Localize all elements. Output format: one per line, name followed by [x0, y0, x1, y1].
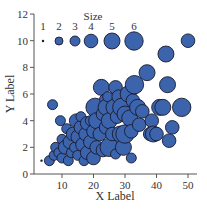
- y-tick-label: 6: [23, 88, 29, 100]
- data-point: [126, 153, 136, 163]
- legend-label: 5: [109, 20, 115, 32]
- y-tick-label: 8: [23, 61, 29, 73]
- legend-marker: [104, 33, 120, 49]
- y-tick-label: 12: [17, 8, 28, 20]
- scatter-chart: Size 123456 0246810121020304050 X Label …: [0, 0, 207, 214]
- data-point: [160, 77, 176, 93]
- data-point: [162, 134, 176, 148]
- data-point: [165, 121, 179, 135]
- legend-marker: [70, 36, 80, 46]
- size-legend: Size 123456: [40, 10, 143, 50]
- data-point: [48, 100, 58, 110]
- y-tick-label: 4: [23, 115, 29, 127]
- data-points: [40, 34, 194, 166]
- legend-label: 2: [56, 20, 62, 32]
- x-tick-label: 40: [151, 179, 163, 191]
- data-point: [173, 98, 191, 116]
- x-tick-label: 10: [57, 179, 69, 191]
- data-point: [181, 34, 195, 48]
- y-axis-label: Y Label: [3, 74, 17, 113]
- legend-marker: [55, 37, 63, 45]
- data-point: [40, 159, 42, 161]
- legend-marker: [42, 40, 44, 42]
- legend-label: 4: [88, 20, 94, 32]
- data-point: [145, 114, 159, 128]
- data-point: [150, 127, 164, 141]
- legend-label: 1: [40, 20, 46, 32]
- data-point: [139, 65, 155, 81]
- y-tick-label: 2: [23, 141, 29, 153]
- x-axis-label: X Label: [96, 189, 136, 203]
- legend-marker: [84, 34, 98, 48]
- legend-label: 6: [131, 20, 137, 32]
- y-tick-label: 0: [23, 168, 29, 180]
- x-tick-label: 50: [183, 179, 195, 191]
- legend-marker: [125, 32, 143, 50]
- data-point: [158, 46, 174, 62]
- legend-label: 3: [72, 20, 78, 32]
- data-point: [155, 99, 171, 115]
- data-point: [132, 118, 146, 132]
- y-tick-label: 10: [17, 35, 29, 47]
